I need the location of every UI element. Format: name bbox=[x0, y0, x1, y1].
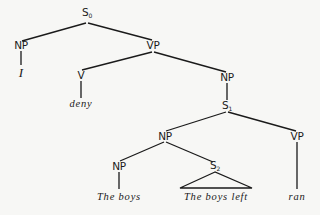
leaf-the-boys: The boys bbox=[97, 192, 141, 203]
leaf-deny: deny bbox=[69, 99, 92, 110]
node-v: V bbox=[78, 70, 85, 81]
node-np-s1: NP bbox=[158, 131, 172, 142]
node-s1: S1 bbox=[222, 100, 232, 112]
node-np-object: NP bbox=[220, 72, 234, 83]
node-vp-s1: VP bbox=[291, 131, 304, 142]
node-vp-main: VP bbox=[147, 40, 160, 51]
edge-s0-np bbox=[22, 23, 86, 41]
edge-s0-vp bbox=[88, 23, 152, 40]
node-s0: S0 bbox=[82, 7, 92, 19]
node-s2-sub: 2 bbox=[216, 165, 220, 172]
leaf-the-boys-left: The boys left bbox=[184, 192, 248, 203]
node-s2: S2 bbox=[210, 160, 220, 172]
node-s0-sub: 0 bbox=[88, 12, 92, 19]
node-np-head: NP bbox=[112, 161, 126, 172]
leaf-ran: ran bbox=[289, 192, 306, 203]
node-np-subject: NP bbox=[14, 40, 28, 51]
node-s1-sub: 1 bbox=[228, 105, 232, 112]
leaf-i: I bbox=[19, 66, 23, 79]
edge-s1-np bbox=[166, 112, 226, 131]
edge-s1-vp bbox=[228, 112, 296, 131]
tree-edges bbox=[0, 0, 320, 215]
edge-np-s2 bbox=[166, 142, 213, 162]
edge-vp-np bbox=[154, 52, 226, 72]
edge-np-nphead bbox=[120, 142, 164, 161]
edge-s2-triangle bbox=[180, 172, 252, 188]
edge-vp-v bbox=[82, 52, 152, 70]
